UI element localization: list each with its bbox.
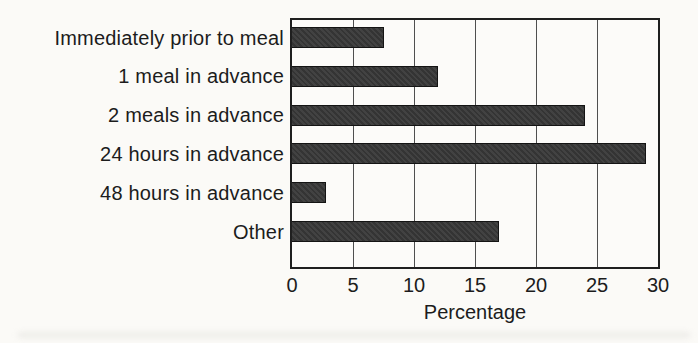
category-label: Immediately prior to meal xyxy=(54,25,284,51)
category-label: 24 hours in advance xyxy=(100,141,284,167)
category-label: 2 meals in advance xyxy=(108,102,284,128)
x-tick-label: 0 xyxy=(286,273,297,297)
scan-artifact xyxy=(18,333,690,337)
category-label: 1 meal in advance xyxy=(118,63,284,89)
category-label: Other xyxy=(233,219,284,245)
category-label: 48 hours in advance xyxy=(100,180,284,206)
bar xyxy=(292,182,326,203)
bar xyxy=(292,66,438,87)
x-tick-label: 5 xyxy=(347,273,358,297)
plot-area xyxy=(290,18,660,269)
x-tick-label: 20 xyxy=(525,273,547,297)
bar-chart-figure: Immediately prior to meal1 meal in advan… xyxy=(0,0,698,343)
x-axis-title: Percentage xyxy=(424,300,526,324)
x-tick-label: 15 xyxy=(464,273,486,297)
x-tick-label: 10 xyxy=(403,273,425,297)
bar xyxy=(292,105,585,126)
bar xyxy=(292,143,646,164)
x-tick-label: 30 xyxy=(647,273,669,297)
bar xyxy=(292,221,499,242)
bar xyxy=(292,27,384,48)
x-tick-label: 25 xyxy=(586,273,608,297)
